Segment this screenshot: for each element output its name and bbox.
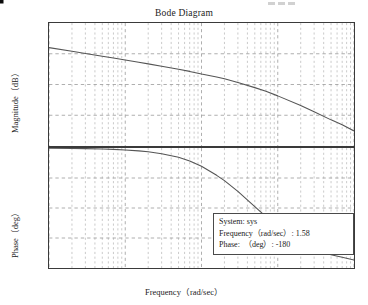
datatip-phase-value: -180 [276,240,291,249]
magnitude-plot-svg [49,23,354,146]
bode-diagram-figure: Bode Diagram Magnitude（dB） Phase（deg） Fr… [0,0,368,305]
phase-axis-label: Phase（deg） [8,208,20,258]
datatip-annotation[interactable]: System: sys Frequency（rad/sec）: 1.58 Pha… [213,213,354,255]
datatip-phase-row: Phase: （deg）: -180 [219,239,349,251]
frequency-axis-label: Frequency（rad/sec） [0,285,368,297]
scan-artifact [268,2,298,6]
datatip-frequency-label: Frequency（rad/sec）: [219,229,294,238]
datatip-frequency-value: 1.58 [296,229,310,238]
data-point-marker[interactable] [0,0,4,4]
magnitude-axis-label: Magnitude（dB） [8,68,20,133]
datatip-system-row: System: sys [219,216,349,228]
magnitude-plot-panel [48,22,355,147]
page-title: Bode Diagram [0,8,368,18]
datatip-system-label: System: [219,217,245,226]
datatip-system-value: sys [247,217,257,226]
datatip-phase-label: Phase: （deg）: [219,240,274,249]
datatip-frequency-row: Frequency（rad/sec）: 1.58 [219,228,349,240]
